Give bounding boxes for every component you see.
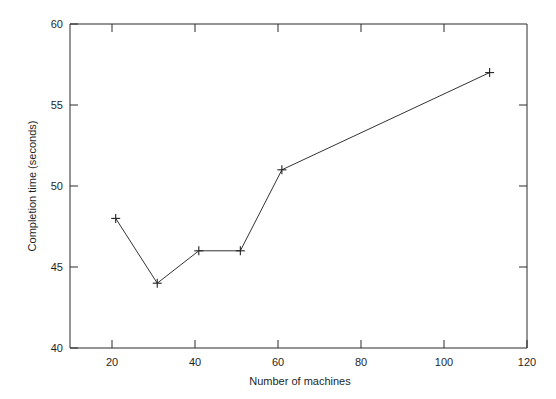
x-tick-label-80: 80 (355, 356, 367, 368)
x-tick-label-40: 40 (189, 356, 201, 368)
y-tick-label-40: 40 (51, 342, 63, 354)
x-tick-label-60: 60 (272, 356, 284, 368)
chart-figure: 40 45 50 55 60 20 40 60 80 100 120 Numbe… (0, 0, 556, 399)
line-chart: 40 45 50 55 60 20 40 60 80 100 120 Numbe… (0, 0, 556, 399)
x-tick-label-120: 120 (518, 356, 536, 368)
x-axis-title: Number of machines (249, 375, 351, 387)
y-tick-label-60: 60 (51, 18, 63, 30)
y-tick-label-50: 50 (51, 180, 63, 192)
x-tick-label-100: 100 (435, 356, 453, 368)
y-tick-label-45: 45 (51, 261, 63, 273)
chart-background (0, 0, 556, 399)
x-tick-label-20: 20 (106, 356, 118, 368)
y-axis-title: Completion time (seconds) (26, 121, 38, 252)
y-tick-label-55: 55 (51, 99, 63, 111)
